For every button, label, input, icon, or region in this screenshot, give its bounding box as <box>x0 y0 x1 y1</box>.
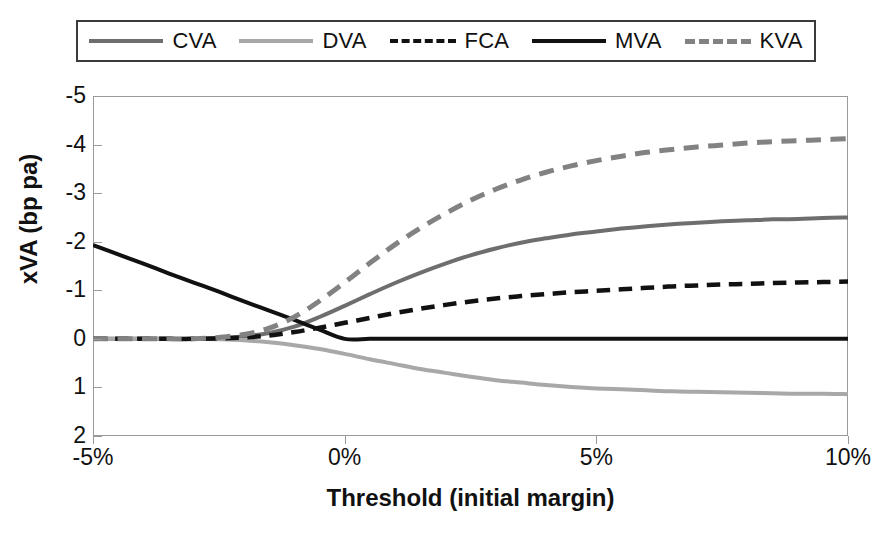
legend-label-mva: MVA <box>615 28 662 54</box>
y-tick-mark <box>93 193 102 194</box>
legend-swatch-cva <box>89 39 163 43</box>
legend-swatch-kva <box>685 39 751 44</box>
x-tick-label: 0% <box>328 444 361 471</box>
series-line-dva <box>93 339 848 394</box>
y-tick-label: -4 <box>40 131 86 158</box>
series-line-mva <box>93 245 848 339</box>
y-tick-label: 0 <box>40 325 86 352</box>
chart-figure: CVADVAFCAMVAKVA xVA (bp pa) -5-4-3-2-101… <box>0 0 892 536</box>
y-tick-mark <box>93 242 102 243</box>
plot-curves <box>93 96 848 436</box>
legend-entry-mva: MVA <box>532 28 662 54</box>
legend-label-cva: CVA <box>172 28 216 54</box>
y-tick-label: -2 <box>40 228 86 255</box>
y-tick-label: 1 <box>40 373 86 400</box>
legend-label-dva: DVA <box>322 28 366 54</box>
y-tick-mark <box>93 290 102 291</box>
series-line-cva <box>93 217 848 339</box>
legend-swatch-dva <box>239 39 313 43</box>
legend-entry-cva: CVA <box>89 28 216 54</box>
y-tick-mark <box>93 436 102 437</box>
x-tick-label: -5% <box>73 444 114 471</box>
legend-swatch-fca <box>390 39 456 43</box>
legend-entry-kva: KVA <box>685 28 803 54</box>
chart-legend: CVADVAFCAMVAKVA <box>76 20 816 62</box>
x-tick-mark <box>848 436 849 444</box>
legend-label-kva: KVA <box>760 28 803 54</box>
x-tick-mark <box>596 436 597 444</box>
y-tick-label: -3 <box>40 179 86 206</box>
x-tick-label: 10% <box>825 444 871 471</box>
y-tick-mark <box>93 339 102 340</box>
y-axis-tick-labels: -5-4-3-2-1012 <box>30 96 86 436</box>
x-tick-mark <box>93 436 94 444</box>
series-line-kva <box>93 139 848 339</box>
x-axis-title: Threshold (initial margin) <box>93 484 848 512</box>
legend-entry-dva: DVA <box>239 28 366 54</box>
legend-label-fca: FCA <box>465 28 510 54</box>
x-tick-mark <box>345 436 346 444</box>
legend-swatch-mva <box>532 39 606 43</box>
x-tick-label: 5% <box>580 444 613 471</box>
y-tick-mark <box>93 145 102 146</box>
y-tick-mark <box>93 96 102 97</box>
y-tick-label: -1 <box>40 276 86 303</box>
y-tick-label: -5 <box>40 82 86 109</box>
series-line-fca <box>93 282 848 339</box>
legend-entry-fca: FCA <box>390 28 510 54</box>
y-tick-mark <box>93 387 102 388</box>
